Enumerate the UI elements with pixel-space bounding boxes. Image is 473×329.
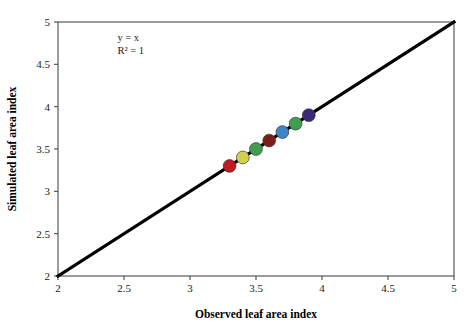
y-tick-label: 4.5 [36, 58, 50, 70]
x-tick-label: 3 [187, 282, 193, 294]
y-tick-label: 5 [45, 16, 51, 28]
chart-background [0, 0, 473, 329]
y-tick-label: 3 [45, 185, 51, 197]
chart-annotation-1: y = x [117, 32, 139, 43]
x-tick-label: 2 [55, 282, 61, 294]
y-tick-label: 3.5 [36, 143, 50, 155]
data-point-marker-1 [223, 160, 236, 173]
y-tick-label: 2 [45, 270, 51, 282]
data-point-marker-4 [263, 134, 276, 147]
data-point-marker-3 [250, 143, 263, 156]
data-point-marker-2 [236, 151, 249, 164]
y-axis-title: Simulated leaf area index [6, 86, 18, 211]
x-tick-label: 4 [319, 282, 325, 294]
x-tick-label: 5 [451, 282, 457, 294]
chart-annotation-2: R² = 1 [117, 45, 144, 56]
data-point-marker-6 [289, 117, 302, 130]
chart-figure: 22.533.544.55 22.533.544.55 Observed lea… [0, 0, 473, 329]
x-tick-label: 4.5 [381, 282, 395, 294]
x-tick-label: 2.5 [117, 282, 131, 294]
data-point-marker-5 [276, 126, 289, 139]
y-tick-label: 2.5 [36, 228, 50, 240]
data-point-marker-7 [302, 109, 315, 122]
x-axis-title: Observed leaf area index [195, 308, 317, 320]
y-tick-label: 4 [45, 101, 51, 113]
scatter-plot-svg: 22.533.544.55 22.533.544.55 Observed lea… [0, 0, 473, 329]
x-tick-label: 3.5 [249, 282, 263, 294]
